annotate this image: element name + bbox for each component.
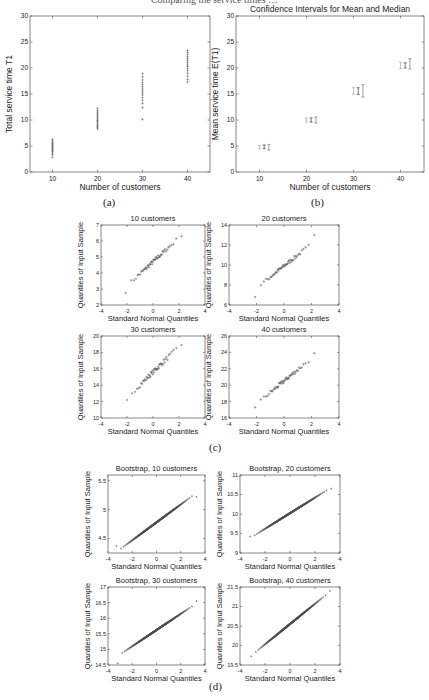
y-tick-label: 6 [224,302,227,308]
chart-title: 30 customers [130,325,175,334]
y-tick-label: 9 [235,550,238,556]
chart-title: Bootstrap, 30 customers [116,576,198,585]
x-tick-label: 0 [282,308,285,314]
x-tick-label: 20 [303,175,311,182]
x-tick-label: 2 [177,308,180,314]
error-bar [310,118,313,122]
y-tick-label: 0 [230,168,234,175]
x-tick-label: 2 [310,421,313,427]
y-tick-label: 5.5 [98,478,106,484]
error-bar [404,63,407,68]
x-tick-label: -2 [130,556,135,562]
caption-d: (d) [209,680,222,692]
y-tick-label: 15 [227,90,235,97]
y-tick-label: 7 [96,222,99,228]
y-tick-label: 12 [93,399,99,405]
y-tick-label: 20.5 [227,623,238,629]
x-tick-label: -2 [125,421,130,427]
y-tick-label: 3 [96,286,99,292]
x-tick-label: 40 [184,175,192,182]
x-axis-label: Standard Normal Quantiles [108,427,199,436]
chart-title: Bootstrap, 10 customers [116,464,198,473]
chart-a: 10203040051015202530Number of customersT… [4,12,210,192]
y-tick-label: 9.5 [230,530,238,536]
y-tick-label: 16 [221,415,227,421]
error-bar [361,85,364,97]
x-tick-label: 2 [177,421,180,427]
x-axis-label: Number of customers [79,182,160,192]
y-axis-label: Mean service time E(T1) [210,48,220,141]
error-bar [263,145,266,149]
y-tick-label: 18 [93,349,99,355]
y-axis-label: Quantiles of Input Sample [76,222,85,308]
plot-frame [229,336,339,418]
x-tick-label: -4 [99,308,104,314]
x-axis-label: Standard Normal Quantiles [111,562,202,571]
x-tick-label: -2 [130,668,135,674]
y-tick-label: 20 [21,64,29,71]
error-bar [314,117,317,123]
y-tick-label: 26 [221,333,227,339]
chart-c1: -4-202423456710 customersStandard Normal… [76,214,207,323]
x-tick-label: 4 [203,421,206,427]
y-tick-label: 19.5 [227,662,238,668]
x-axis-label: Standard Normal Quantiles [108,314,199,323]
x-tick-label: 40 [397,175,405,182]
chart-c3: -4-202410121416182030 customersStandard … [76,325,207,436]
y-tick-label: 4.5 [98,535,106,541]
x-tick-label: 4 [338,556,341,562]
y-tick-label: 18 [221,399,227,405]
chart-title: Confidence Intervals for Mean and Median [250,4,410,14]
chart-title: Bootstrap, 20 customers [249,464,331,473]
y-tick-label: 22 [221,366,227,372]
y-tick-label: 14.5 [95,662,106,668]
plot-frame [101,336,205,418]
x-tick-label: 30 [350,175,358,182]
y-tick-label: 10 [93,415,99,421]
chart-d1: -4-20244.555.5Bootstrap, 10 customersSta… [83,464,207,571]
y-tick-label: 2 [96,302,99,308]
x-tick-label: 2 [179,668,182,674]
y-axis-label: Quantiles of Input Sample [204,334,213,420]
y-tick-label: 21 [232,603,238,609]
x-tick-label: -4 [227,308,232,314]
chart-b: 10203040051015202530Confidence Intervals… [210,4,424,192]
y-axis-label: Quantiles of Input Sample [76,334,85,420]
error-bar [399,62,402,68]
error-bar [267,144,270,150]
x-tick-label: 0 [288,556,291,562]
y-tick-label: 5 [230,142,234,149]
chart-title: 40 customers [261,325,306,334]
y-tick-label: 14 [221,222,227,228]
x-tick-label: 0 [155,668,158,674]
chart-d2: -4-202499.51010.511Bootstrap, 20 custome… [215,464,342,571]
x-tick-label: 10 [49,175,57,182]
y-tick-label: 20 [227,64,235,71]
y-tick-label: 20 [221,382,227,388]
x-tick-label: 0 [155,556,158,562]
x-tick-label: 0 [151,308,154,314]
y-tick-label: 15 [100,646,106,652]
chart-title: Bootstrap, 40 customers [249,576,331,585]
caption-a: (a) [103,196,115,208]
y-tick-label: 0 [24,168,28,175]
caption-c: (c) [209,441,221,453]
y-axis-label: Quantiles of Input Sample [204,222,213,308]
y-tick-label: 25 [21,38,29,45]
chart-d4: -4-202419.52020.52121.5Bootstrap, 40 cus… [215,576,342,683]
y-tick-label: 4 [96,270,99,276]
plot-frame [30,16,210,172]
x-tick-label: -2 [254,421,259,427]
x-tick-label: 4 [337,308,340,314]
y-axis-label: Quantiles of Input Sample [83,583,92,669]
y-tick-label: 11 [232,472,238,478]
x-tick-label: 2 [313,556,316,562]
y-tick-label: 5 [96,254,99,260]
x-tick-label: 4 [203,556,206,562]
y-axis-label: Quantiles of Input Sample [83,471,92,557]
x-tick-label: -2 [263,556,268,562]
error-bar [357,88,360,95]
y-tick-label: 10 [21,116,29,123]
y-tick-label: 10.5 [227,491,238,497]
plot-frame [108,475,205,553]
